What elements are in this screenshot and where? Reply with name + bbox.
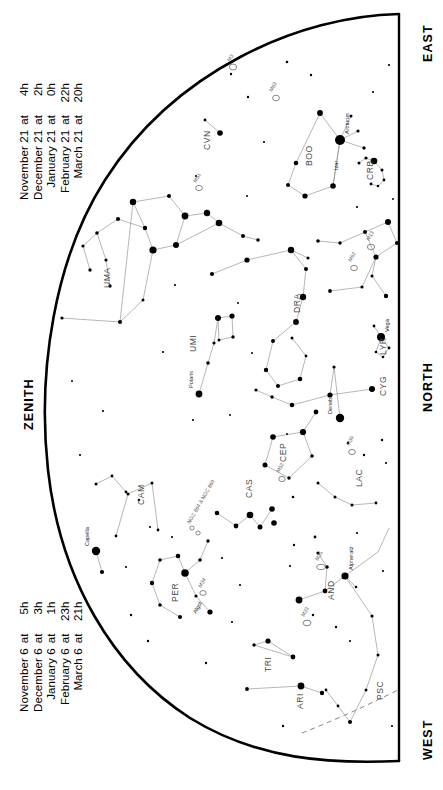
- time-date: March 21: [72, 130, 86, 179]
- time-date: November 6: [18, 648, 32, 712]
- time-hour: 1h: [45, 602, 59, 630]
- dso-label-ngc884-869: NGC 884 & NGC 869: [186, 478, 216, 524]
- constellation-label-lyr: LYR: [378, 337, 388, 355]
- time-hour: 20h: [72, 83, 86, 111]
- star-label-capella: Capella: [84, 526, 90, 546]
- constellation-label-cvn: CVN: [202, 130, 212, 150]
- time-at: at: [18, 111, 32, 130]
- time-at: at: [59, 630, 73, 649]
- time-row: March 6at21h: [72, 602, 86, 712]
- time-date: February 6: [59, 648, 73, 705]
- star-label-arcturus: Arcturus: [344, 113, 350, 134]
- time-row: December 21at2h: [32, 83, 46, 200]
- time-at: at: [45, 111, 59, 130]
- star-label-algol: Algol: [192, 601, 203, 615]
- time-row: January 21at0h: [45, 83, 59, 200]
- time-hour: 3h: [32, 602, 46, 630]
- constellation-label-per: PER: [170, 583, 180, 602]
- time-row: March 21at20h: [72, 83, 86, 200]
- star-chart-page: UMA UMI CVN BOO CRB DRA CEP CAS CAM PER …: [0, 0, 443, 790]
- time-date: January 6: [45, 648, 59, 699]
- time-date: November 21: [18, 130, 32, 200]
- cardinal-label-north: NORTH: [421, 362, 435, 412]
- time-hour: 5h: [18, 602, 32, 630]
- time-hour: 23h: [59, 602, 73, 630]
- time-row: December 6at3h: [32, 602, 46, 712]
- constellation-label-lac: LAC: [354, 469, 364, 487]
- time-at: at: [32, 111, 46, 130]
- constellation-label-umi: UMI: [188, 335, 198, 352]
- cardinal-label-east: EAST: [421, 24, 435, 62]
- constellation-label-psc: PSC: [375, 681, 385, 700]
- star-label-vega: Vega: [384, 318, 390, 332]
- time-row: February 21at22h: [59, 83, 73, 200]
- lower-time-table: November 6at5h December 6at3h January 6a…: [18, 602, 86, 712]
- constellation-label-uma: UMA: [102, 267, 112, 288]
- star-label-izar: Izar: [333, 161, 339, 170]
- cardinal-label-west: WEST: [421, 719, 435, 760]
- time-hour: 4h: [18, 83, 32, 111]
- deep-sky-symbols: [190, 64, 375, 626]
- chart-frame: [45, 14, 405, 762]
- time-at: at: [59, 111, 73, 130]
- constellation-lines: [62, 113, 397, 722]
- frame-right-edge: [396, 14, 405, 761]
- dso-label-m39: M39: [345, 435, 355, 447]
- constellation-label-cam: CAM: [136, 484, 146, 505]
- dso-label-m34: M34: [197, 577, 207, 589]
- time-hour: 21h: [72, 602, 86, 630]
- cardinal-label-zenith: ZENITH: [22, 378, 36, 430]
- time-row: January 6at1h: [45, 602, 59, 712]
- star-field: [60, 61, 399, 728]
- time-at: at: [72, 630, 86, 649]
- star-label-deneb: Deneb: [327, 398, 333, 414]
- time-date: March 6: [72, 648, 86, 690]
- sky-labels: UMA UMI CVN BOO CRB DRA CEP CAS CAM PER …: [84, 53, 390, 709]
- dso-label-m51: M51: [192, 172, 202, 184]
- constellation-label-and: AND: [326, 580, 336, 600]
- time-row: November 21at4h: [18, 83, 32, 200]
- star-label-alpheratz: Alpheratz: [348, 546, 354, 570]
- time-date: December 21: [32, 130, 46, 200]
- time-date: January 21: [45, 130, 59, 188]
- time-row: February 6at23h: [59, 602, 73, 712]
- dso-label-m63: M63: [268, 81, 278, 93]
- constellation-label-ari: ARI: [295, 693, 305, 709]
- constellation-label-crb: CRB: [365, 160, 375, 180]
- constellation-label-cas: CAS: [244, 479, 254, 498]
- dso-label-m92: M92: [347, 251, 357, 263]
- upper-time-table: November 21at4h December 21at2h January …: [18, 83, 86, 200]
- time-at: at: [18, 630, 32, 649]
- star-label-polaris: Polaris: [188, 371, 194, 388]
- constellation-label-dra: DRA: [292, 293, 302, 313]
- time-date: December 6: [32, 648, 46, 712]
- constellation-label-boo: BOO: [304, 145, 314, 166]
- time-at: at: [32, 630, 46, 649]
- constellation-label-cep: CEP: [278, 443, 288, 462]
- constellation-label-tri: TRI: [263, 657, 273, 672]
- time-at: at: [72, 111, 86, 130]
- dso-label-m52: M52: [275, 462, 285, 474]
- time-hour: 22h: [59, 83, 73, 111]
- time-hour: 0h: [45, 83, 59, 111]
- dso-label-m33: M33: [300, 606, 310, 618]
- constellation-label-cyg: CYG: [378, 376, 388, 396]
- time-hour: 2h: [32, 83, 46, 111]
- time-date: February 21: [59, 130, 73, 193]
- time-at: at: [45, 630, 59, 649]
- time-row: November 6at5h: [18, 602, 32, 712]
